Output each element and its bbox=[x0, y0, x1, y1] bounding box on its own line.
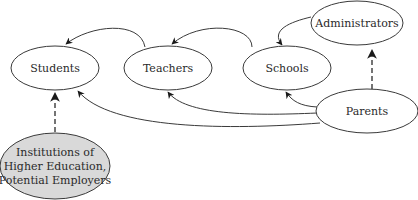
node-students: Students bbox=[11, 46, 99, 90]
institutions-label-line2: Higher Education, bbox=[4, 160, 107, 173]
institutions-label-line1: Institutions of bbox=[16, 146, 95, 159]
node-parents: Parents bbox=[316, 89, 418, 133]
node-teachers: Teachers bbox=[124, 46, 212, 90]
schools-label: Schools bbox=[265, 62, 309, 75]
teachers-label: Teachers bbox=[143, 62, 194, 75]
edge-parents-to-schools bbox=[286, 92, 317, 107]
students-label: Students bbox=[30, 62, 80, 75]
edge-teachers-to-students bbox=[66, 28, 145, 47]
node-schools: Schools bbox=[243, 46, 331, 90]
node-administrators: Administrators bbox=[311, 1, 403, 45]
node-institutions: Institutions of Higher Education, Potent… bbox=[0, 133, 112, 199]
edge-administrators-to-schools bbox=[278, 17, 311, 45]
edge-schools-to-teachers bbox=[172, 28, 252, 47]
stakeholder-diagram: Students Teachers Schools Administrators… bbox=[0, 0, 418, 200]
institutions-label-line3: Potential Employers bbox=[0, 174, 112, 187]
administrators-label: Administrators bbox=[314, 17, 399, 30]
parents-label: Parents bbox=[346, 105, 389, 118]
edge-parents-to-students bbox=[78, 91, 320, 127]
edge-parents-to-teachers bbox=[168, 92, 317, 114]
